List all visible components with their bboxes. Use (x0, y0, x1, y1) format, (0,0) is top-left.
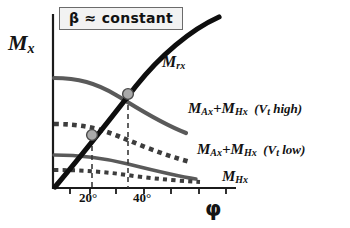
y-axis-label: Mx (8, 30, 35, 57)
lbl-low-plus-m: +M (222, 141, 244, 157)
annotation-box-beta-constant: β ≈ constant (59, 7, 183, 30)
x-tick-label-40: 40° (133, 190, 151, 206)
marker-intersection-high (123, 89, 134, 100)
curve-label-mrx-sub: rx (176, 60, 185, 71)
lbl-mhx-m: M (222, 168, 235, 184)
marker-intersection-low (87, 130, 98, 141)
y-axis-label-main: M (8, 30, 28, 55)
curve-label-mhx: MHx (222, 168, 248, 185)
curve-label-max-mhx-vt-high: MAx+MHx (Vt high) (188, 100, 302, 117)
y-axis-label-sub: x (28, 41, 35, 56)
lbl-high-paren: (V (254, 101, 267, 116)
lbl-low-paren-tail: low) (279, 142, 305, 157)
lbl-low-hx: Hx (244, 147, 257, 158)
lbl-high-m: M (188, 100, 201, 116)
curve-label-mrx: Mrx (162, 53, 185, 71)
lbl-low-m: M (197, 141, 210, 157)
lbl-high-paren-tail: high) (270, 101, 302, 116)
lbl-high-hx: Hx (235, 106, 248, 117)
curve-label-mrx-main: M (162, 53, 176, 70)
lbl-low-paren: (V (263, 142, 276, 157)
lbl-high-ax: Ax (201, 106, 213, 117)
lbl-high-plus-m: +M (213, 100, 235, 116)
figure-canvas: β ≈ constant Mx φ 20° 40° Mrx MAx+MHx (V… (0, 0, 350, 228)
lbl-mhx-hx: Hx (235, 174, 248, 185)
lbl-low-ax: Ax (210, 147, 222, 158)
x-axis-label: φ (205, 197, 221, 221)
x-tick-label-20: 20° (79, 190, 97, 206)
curve-label-max-mhx-vt-low: MAx+MHx (Vt low) (197, 141, 305, 158)
